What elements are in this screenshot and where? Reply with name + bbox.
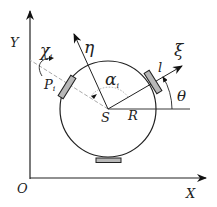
theta-arc <box>163 77 172 109</box>
radius-label-r: R <box>127 108 138 123</box>
chi-label: χi <box>39 41 53 61</box>
eta-label: η <box>84 37 95 57</box>
length-label-l: l <box>158 60 162 75</box>
wheel-point-label: Pi <box>43 77 56 93</box>
wheel-bottom <box>96 158 121 163</box>
alpha-arrow-head <box>91 94 97 99</box>
alpha-label: αi <box>105 69 119 90</box>
theta-label: θ <box>177 87 186 105</box>
origin-label: O <box>17 181 28 196</box>
xi-label: ξ <box>174 40 185 60</box>
center-label-s: S <box>101 110 110 125</box>
x-axis-label: X <box>185 186 196 201</box>
y-axis-label: Y <box>10 35 20 50</box>
omni-robot-diagram: Y X O S R ξ η θ l αi χi Pi <box>0 0 217 207</box>
